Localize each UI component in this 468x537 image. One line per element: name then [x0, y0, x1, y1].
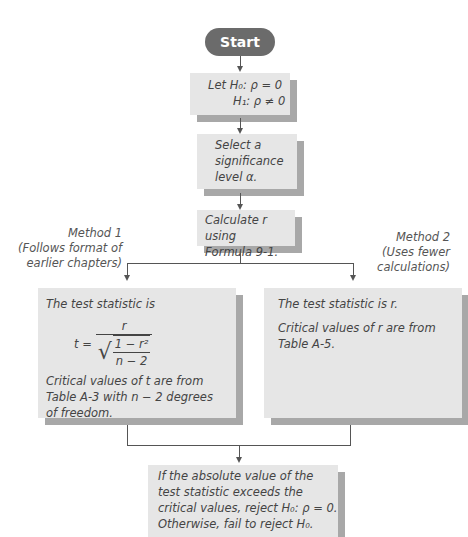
text-line: critical values, reject H₀: ρ = 0.: [158, 500, 338, 516]
text-line: test statistic exceeds the: [158, 484, 338, 500]
test-statistic-intro: The test statistic is: [46, 296, 224, 312]
text-line: If the absolute value of the: [158, 468, 338, 484]
branch-line: [127, 263, 354, 264]
denominator: √ 1 − r² n − 2: [96, 334, 153, 369]
text-line: Select a: [215, 137, 297, 153]
text-line: earlier chapters): [0, 256, 122, 271]
critical-values-text: Critical values of t are from Table A-3 …: [46, 373, 224, 421]
test-statistic-intro: The test statistic is r.: [278, 296, 454, 312]
text-line: calculations): [330, 260, 450, 275]
connector: [350, 425, 351, 445]
conclusion-box: If the absolute value of the test statis…: [148, 465, 338, 537]
text-line: Calculate r using: [205, 212, 295, 244]
t-formula: t = r √ 1 − r² n − 2: [74, 318, 224, 369]
null-hypothesis: Let H₀: ρ = 0: [190, 77, 290, 93]
method2-box: The test statistic is r. Critical values…: [264, 288, 462, 418]
significance-box: Select a significance level α.: [197, 134, 297, 189]
inner-denominator: n − 2: [113, 352, 151, 369]
critical-values-text: Critical values of r are from Table A-5.: [278, 320, 454, 352]
method2-title: Method 2: [330, 230, 450, 245]
inner-fraction: 1 − r² n − 2: [113, 335, 151, 369]
calculate-r-box: Calculate r using Formula 9-1.: [197, 210, 295, 246]
arrow-down-icon: [237, 66, 243, 72]
method1-title: Method 1: [0, 226, 122, 241]
text-line: Otherwise, fail to reject H₀.: [158, 516, 338, 532]
arrow-down-icon: [236, 457, 242, 463]
method1-box: The test statistic is t = r √ 1 − r² n −…: [38, 288, 236, 418]
inner-numerator: 1 − r²: [115, 336, 149, 352]
hypothesis-box: Let H₀: ρ = 0 H₁: ρ ≠ 0: [190, 73, 290, 115]
numerator: r: [116, 318, 133, 334]
text-line: Formula 9-1.: [205, 244, 295, 260]
formula-lhs: t =: [74, 336, 92, 352]
connector: [127, 425, 128, 445]
alt-hypothesis: H₁: ρ ≠ 0: [190, 93, 290, 109]
method2-label: Method 2 (Uses fewer calculations): [330, 230, 450, 275]
text-line: (Uses fewer: [330, 245, 450, 260]
method1-label: Method 1 (Follows format of earlier chap…: [0, 226, 122, 271]
text-line: (Follows format of: [0, 241, 122, 256]
sqrt-icon: √: [98, 344, 112, 360]
text-line: level α.: [215, 169, 297, 185]
text-line: significance: [215, 153, 297, 169]
fraction: r √ 1 − r² n − 2: [96, 318, 153, 369]
arrow-down-icon: [124, 275, 130, 281]
start-node: Start: [205, 28, 275, 56]
arrow-down-icon: [350, 275, 356, 281]
